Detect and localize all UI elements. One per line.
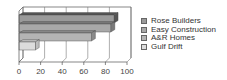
- x-tick-label: 20: [36, 67, 45, 76]
- bar-chart: 020406080100: [0, 0, 140, 80]
- legend-swatch: [141, 44, 147, 50]
- chart-bars: [19, 13, 118, 50]
- legend-swatch: [141, 35, 147, 41]
- bar-gulf-drift: [19, 40, 39, 50]
- x-tick-label: 60: [79, 67, 88, 76]
- legend-swatch: [141, 27, 147, 33]
- legend-swatch: [141, 18, 147, 24]
- x-tick-label: 40: [58, 67, 67, 76]
- x-tick-label: 0: [17, 67, 22, 76]
- x-tick-label: 80: [101, 67, 110, 76]
- legend-label: Gulf Drift: [151, 43, 183, 51]
- legend-label: Rose Builders: [151, 17, 201, 25]
- legend-item-gulf-drift: Gulf Drift: [141, 43, 216, 51]
- x-tick-label: 100: [120, 67, 134, 76]
- chart-legend: Rose Builders Easy Construction A&R Home…: [141, 17, 216, 51]
